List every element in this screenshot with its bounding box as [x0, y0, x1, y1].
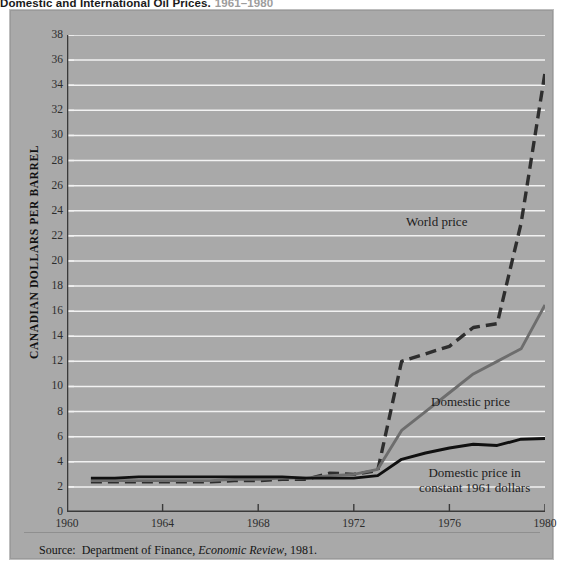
- x-tick-label: 1960: [37, 518, 97, 530]
- y-tick-label: 30: [33, 129, 63, 141]
- y-tick-label: 26: [33, 180, 63, 192]
- y-tick-label: 8: [33, 406, 63, 418]
- data-series-layer: [91, 73, 545, 482]
- y-tick-label: 34: [33, 79, 63, 91]
- series-line-1: [91, 305, 545, 481]
- x-tick-label: 1972: [324, 518, 384, 530]
- y-axis-ticks: 02468101214161820222426283032343638: [28, 35, 63, 512]
- figure-page: Domestic and International Oil Prices, 1…: [0, 0, 562, 568]
- chart-panel: CANADIAN DOLLARS PER BARREL 024681012141…: [9, 9, 554, 560]
- source-note: Source: Department of Finance, Economic …: [39, 543, 317, 558]
- gridlines: [67, 35, 545, 487]
- y-tick-label: 20: [33, 255, 63, 267]
- y-tick-label: 6: [33, 431, 63, 443]
- y-tick-label: 2: [33, 481, 63, 493]
- plot-area: [67, 35, 545, 512]
- y-tick-label: 22: [33, 230, 63, 242]
- series-label-constant-line1: Domestic price in: [419, 465, 530, 480]
- x-tick-label: 1964: [133, 518, 193, 530]
- y-tick-label: 18: [33, 280, 63, 292]
- chart-svg: [67, 35, 545, 512]
- x-tick-label: 1980: [515, 518, 562, 530]
- x-tick-label: 1976: [419, 518, 479, 530]
- series-label-constant-dollars: Domestic price in constant 1961 dollars: [419, 465, 530, 496]
- source-agency: Department of Finance,: [82, 543, 196, 557]
- series-label-world-price: World price: [406, 214, 467, 229]
- y-tick-label: 32: [33, 104, 63, 116]
- source-prefix: Source:: [39, 543, 76, 557]
- chart-title-years: 1961–1980: [215, 0, 273, 7]
- source-year: , 1981.: [284, 543, 317, 557]
- source-publication: Economic Review: [198, 543, 284, 557]
- y-tick-label: 14: [33, 330, 63, 342]
- x-axis-ticks: 196019641968197219761980: [67, 518, 545, 536]
- source-divider: [24, 532, 540, 533]
- y-tick-label: 4: [33, 456, 63, 468]
- y-tick-label: 28: [33, 155, 63, 167]
- x-tick-label: 1968: [228, 518, 288, 530]
- chart-title-main: Domestic and International Oil Prices,: [0, 0, 211, 7]
- series-label-constant-line2: constant 1961 dollars: [419, 480, 530, 495]
- y-tick-label: 36: [33, 54, 63, 66]
- y-tick-label: 24: [33, 205, 63, 217]
- y-tick-label: 0: [33, 506, 63, 518]
- chart-title: Domestic and International Oil Prices, 1…: [0, 0, 562, 7]
- y-tick-label: 16: [33, 305, 63, 317]
- series-line-0: [91, 73, 545, 482]
- y-tick-label: 10: [33, 380, 63, 392]
- y-tick-label: 38: [33, 29, 63, 41]
- y-tick-label: 12: [33, 355, 63, 367]
- series-label-domestic-price: Domestic price: [431, 394, 510, 409]
